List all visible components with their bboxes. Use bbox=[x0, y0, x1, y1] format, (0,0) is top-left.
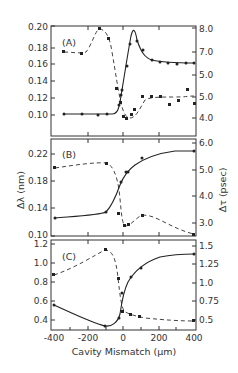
panel-b-label: (B) bbox=[62, 149, 76, 160]
tick-a-left-5: 0.10 bbox=[28, 110, 48, 120]
panel-a-label: (A) bbox=[62, 37, 76, 48]
x-tick-4: 400 bbox=[185, 333, 202, 343]
tick-b-left-1: 0.18 bbox=[28, 176, 48, 186]
panel-b-right-ticks bbox=[192, 143, 196, 223]
tick-c-right-3: 0.75 bbox=[199, 296, 219, 306]
panel-b-x-ticks bbox=[88, 139, 159, 236]
tick-a-left-2: 0.16 bbox=[28, 59, 48, 69]
x-tick-1: -200 bbox=[78, 333, 99, 343]
tick-a-right-3: 5.0 bbox=[199, 92, 214, 102]
panel-a-solid-points bbox=[63, 40, 196, 117]
tick-c-left-0: 1.2 bbox=[34, 239, 48, 249]
tick-c-right-2: 1.0 bbox=[199, 278, 214, 288]
tick-a-right-2: 5.0 bbox=[199, 70, 214, 80]
panel-b-dashed-curve bbox=[55, 163, 194, 234]
y-axis-right-label: Δτ (psec) bbox=[217, 168, 228, 213]
panel-a-left-ticks bbox=[51, 26, 55, 115]
tick-b-left-2: 0.14 bbox=[28, 203, 48, 213]
panel-a-dashed-curve bbox=[64, 29, 194, 118]
x-tick-3: 200 bbox=[150, 333, 167, 343]
panel-a-dashed-points bbox=[62, 27, 196, 120]
tick-c-right-1: 1.25 bbox=[199, 259, 219, 269]
tick-a-right-0: 8.0 bbox=[199, 24, 214, 34]
panel-b-solid-points bbox=[54, 150, 196, 220]
tick-c-left-3: 0.6 bbox=[34, 296, 49, 306]
panel-c-left-ticks bbox=[51, 244, 55, 320]
tick-b-right-0: 6.0 bbox=[199, 138, 214, 148]
panel-b: (B) 0.22 0.18 0.14 0.10 6.0 5.0 4.0 3.0 bbox=[15, 138, 228, 240]
panel-c-solid-points bbox=[53, 253, 196, 328]
tick-b-right-1: 5.0 bbox=[199, 165, 214, 175]
tick-a-left-0: 0.20 bbox=[28, 22, 48, 32]
tick-b-left-0: 0.22 bbox=[28, 149, 48, 159]
tick-c-left-2: 0.8 bbox=[34, 277, 49, 287]
tick-b-right-2: 4.0 bbox=[199, 191, 214, 201]
tick-a-right-1: 7.0 bbox=[199, 47, 214, 57]
panel-c-label: (C) bbox=[62, 251, 76, 262]
panel-c-right-ticks bbox=[192, 246, 196, 320]
panel-c: (C) 1.2 1.0 0.8 0.6 0.4 1.5 1.25 1.0 0.7… bbox=[34, 239, 219, 357]
tick-a-left-1: 0.18 bbox=[28, 43, 48, 53]
panel-b-dashed-points bbox=[53, 162, 195, 236]
y-axis-left-label: Δλ (nm) bbox=[15, 171, 26, 209]
tick-c-right-4: 0.5 bbox=[199, 315, 213, 325]
tick-c-right-0: 1.5 bbox=[199, 241, 213, 251]
tick-b-right-3: 3.0 bbox=[199, 218, 214, 228]
tick-a-left-3: 0.14 bbox=[28, 76, 48, 86]
x-axis-label: Cavity Mismatch (μm) bbox=[72, 346, 177, 357]
figure: (A) 0.20 0.18 0.16 0.14 0.12 0.10 8.0 7.… bbox=[0, 0, 238, 373]
tick-a-left-4: 0.12 bbox=[28, 93, 48, 103]
tick-c-left-4: 0.4 bbox=[34, 315, 49, 325]
x-tick-0: -400 bbox=[44, 333, 65, 343]
panel-b-solid-curve bbox=[55, 151, 194, 218]
panel-c-x-ticks bbox=[70, 240, 176, 330]
panel-c-solid-curve bbox=[54, 254, 194, 326]
x-tick-2: 0 bbox=[120, 333, 126, 343]
panel-a: (A) 0.20 0.18 0.16 0.14 0.12 0.10 8.0 7.… bbox=[28, 22, 214, 136]
tick-a-right-4: 4.0 bbox=[199, 113, 214, 123]
tick-c-left-1: 1.0 bbox=[34, 258, 49, 268]
